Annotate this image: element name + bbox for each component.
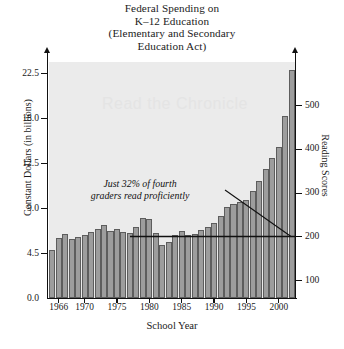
annotation-leader-and-trend: [0, 0, 344, 349]
annotation-leader-line: [225, 190, 291, 237]
chart-figure: Federal Spending on K–12 Education (Elem…: [0, 0, 344, 349]
